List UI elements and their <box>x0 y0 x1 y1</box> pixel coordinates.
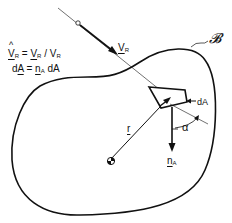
body-label: 𝓑 <box>209 33 221 43</box>
eq1-slash: / <box>44 48 47 59</box>
velocity-origin-circle <box>76 21 80 25</box>
velocity-label-sub: R <box>125 47 129 53</box>
eq2-rhs-tail: dA <box>47 63 59 74</box>
eq2-lhs-A: A <box>18 63 24 74</box>
position-vector-label: r <box>127 124 130 134</box>
eq1-rhs-num-sub: R <box>37 53 41 59</box>
velocity-label-main: V <box>118 42 125 53</box>
area-element-label: dA <box>197 97 208 107</box>
normal-label-sub: A <box>173 160 177 166</box>
eq1-hat: ^ <box>9 40 13 50</box>
eq2-equals: = <box>26 63 32 74</box>
equation-unit-velocity: VR = VR / VR <box>8 49 61 61</box>
eq2-rhs-vec-sub: A <box>41 68 45 74</box>
velocity-arrow <box>80 25 113 51</box>
equation-area-vector: dA = nA dA <box>12 64 60 76</box>
center-of-mass-icon <box>107 157 114 164</box>
angle-reference-line <box>170 104 208 124</box>
angle-label: α <box>182 122 188 132</box>
body-label-leader <box>191 41 208 47</box>
normal-arrowhead <box>169 143 176 152</box>
velocity-label: VR <box>118 43 129 55</box>
normal-label: nA <box>167 156 177 168</box>
diagram-canvas <box>0 0 232 223</box>
eq1-rhs-den-sub: R <box>56 53 60 59</box>
eq1-lhs-sub: R <box>15 53 19 59</box>
position-vector <box>110 107 160 160</box>
eq1-equals: = <box>22 48 28 59</box>
area-element-patch <box>149 87 187 108</box>
